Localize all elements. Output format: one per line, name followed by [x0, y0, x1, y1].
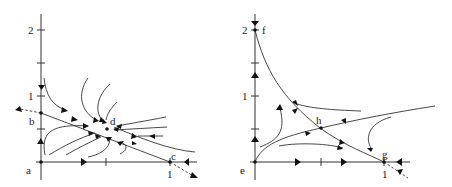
- left-arrow: [149, 134, 155, 139]
- left-trajectory: [82, 78, 96, 120]
- left-trajectory: [88, 138, 110, 157]
- left-trajectory: [117, 117, 166, 126]
- right-arrow: [292, 108, 298, 114]
- left-point-label-a: a: [26, 164, 31, 176]
- right-equilibrium-g: [382, 160, 386, 164]
- right-arrow: [251, 21, 259, 26]
- right-arrow: [396, 158, 402, 166]
- left-equilibrium-b: [39, 111, 43, 115]
- left-arrow: [132, 141, 137, 145]
- right-point-label-e: e: [240, 164, 245, 176]
- left-trajectory: [66, 137, 101, 155]
- left-arrow: [37, 138, 44, 144]
- right-arrow: [251, 136, 259, 142]
- left-y-label-2: 2: [28, 24, 34, 36]
- left-arrow: [61, 107, 68, 113]
- right-point-label-h: h: [316, 114, 322, 126]
- right-arrow: [295, 158, 301, 166]
- right-separatrix-eh: [255, 106, 435, 162]
- left-equilibrium-c: [168, 160, 172, 164]
- left-trajectory: [114, 127, 167, 130]
- right-arrow: [305, 131, 311, 136]
- right-equilibrium-e: [253, 160, 257, 164]
- left-point-label-b: b: [29, 115, 35, 127]
- left-equilibrium-a: [39, 160, 43, 164]
- right-point-label-f: f: [262, 24, 266, 36]
- left-equilibrium-d: [105, 127, 109, 131]
- left-dashed-extension-b: [20, 109, 41, 113]
- left-trajectory: [44, 126, 88, 155]
- left-arrow: [184, 158, 189, 166]
- right-x-label-1: 1: [382, 168, 388, 180]
- right-dashed-extension-g: [384, 162, 408, 178]
- right-point-label-g: g: [382, 148, 388, 160]
- left-x-label-1: 1: [167, 168, 173, 180]
- right-equilibrium-h: [319, 126, 323, 130]
- left-point-label-c: c: [171, 150, 176, 162]
- right-phase-portrait: 2 1 1 e f g h: [240, 14, 435, 180]
- right-trajectory: [297, 104, 361, 111]
- left-y-label-1: 1: [28, 90, 34, 102]
- right-arrow: [367, 148, 373, 152]
- left-arrow: [38, 85, 45, 90]
- left-arrow: [15, 106, 22, 112]
- right-y-label-2: 2: [242, 24, 248, 36]
- left-arrow: [83, 123, 89, 129]
- left-arrow: [190, 172, 198, 178]
- right-arrow: [341, 158, 347, 166]
- left-arrow: [93, 117, 99, 123]
- right-arrow: [397, 169, 403, 175]
- right-arrow: [276, 104, 283, 110]
- left-phase-portrait: 2 1 1 a b c d: [15, 14, 198, 180]
- right-trajectory: [260, 108, 282, 147]
- right-trajectory: [368, 117, 391, 148]
- right-trajectory: [279, 144, 343, 148]
- left-arrow: [71, 116, 78, 122]
- left-separatrix-line: [41, 113, 170, 162]
- left-point-label-d: d: [110, 115, 116, 127]
- left-trajectory: [44, 78, 66, 110]
- right-y-label-1: 1: [242, 90, 248, 102]
- left-arrow: [81, 158, 87, 166]
- right-arrow: [339, 139, 345, 145]
- right-arrow: [251, 72, 259, 78]
- right-equilibrium-f: [253, 28, 257, 32]
- phase-portraits: 2 1 1 a b c d: [0, 0, 452, 187]
